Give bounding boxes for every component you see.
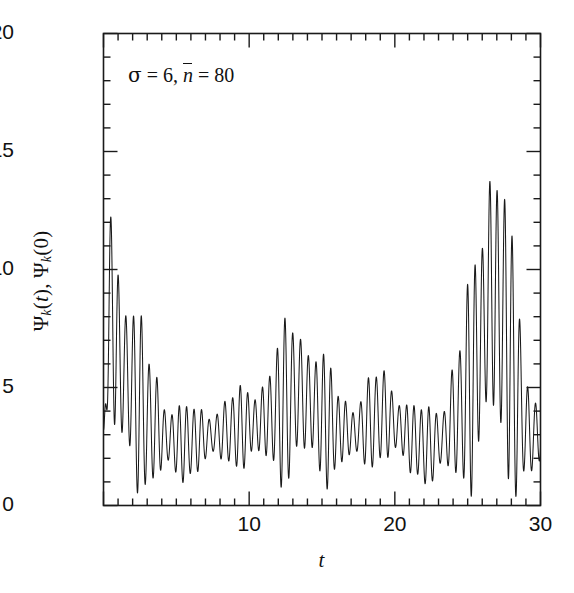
plot-canvas — [0, 0, 574, 593]
x-tick-label: 10 — [219, 512, 279, 536]
sigma-value-text: = 6, — [142, 64, 178, 86]
nbar-symbol: n — [183, 64, 193, 86]
x-tick-label: 30 — [511, 512, 571, 536]
y-tick-label: 0 — [0, 492, 14, 516]
plot-annotation: σ = 6, n = 80 — [128, 63, 234, 87]
x-axis-title: t — [103, 548, 540, 573]
y-tick-label: 5 — [0, 374, 14, 398]
data-series-line — [104, 181, 541, 496]
nbar-value-text: = 80 — [193, 64, 234, 86]
y-axis-title: Ψk(t), Ψk(0) — [29, 151, 55, 411]
y-tick-label: 20 — [0, 20, 14, 44]
figure-panel: Ψk(t), Ψk(0) t σ = 6, n = 80 05101520 10… — [0, 0, 574, 593]
y-tick-label: 15 — [0, 138, 14, 162]
sigma-symbol: σ — [128, 63, 142, 87]
x-tick-label: 20 — [365, 512, 425, 536]
y-tick-label: 10 — [0, 256, 14, 280]
y-axis-title-text: Ψk(t), Ψk(0) — [29, 231, 53, 332]
